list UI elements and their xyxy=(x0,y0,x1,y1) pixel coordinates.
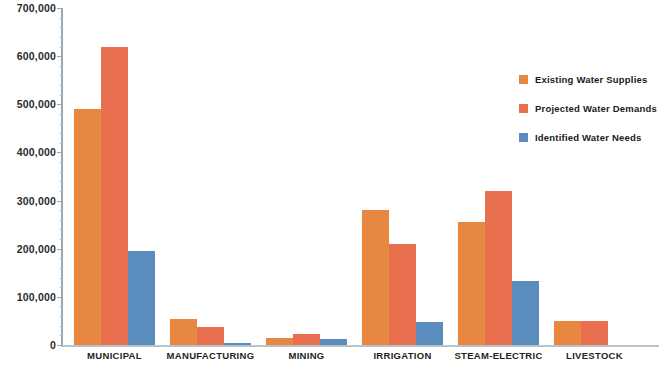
y-axis-minor-tick xyxy=(59,287,62,288)
y-axis-minor-tick xyxy=(59,162,62,163)
legend-item: Existing Water Supplies xyxy=(519,68,664,90)
legend-item: Identified Water Needs xyxy=(519,126,664,148)
x-axis-tick-label: IRRIGATION xyxy=(373,350,431,361)
x-axis-baseline xyxy=(61,345,659,347)
y-axis-minor-tick xyxy=(59,133,62,134)
y-axis-minor-tick xyxy=(59,172,62,173)
bar xyxy=(416,322,443,345)
y-axis-minor-tick xyxy=(59,306,62,307)
y-axis-minor-tick xyxy=(59,47,62,48)
y-axis-minor-tick xyxy=(59,181,62,182)
y-axis-tick-label: 300,000 xyxy=(0,195,56,207)
legend-swatch-orange-icon xyxy=(519,75,528,84)
y-axis-minor-tick xyxy=(59,191,62,192)
y-axis-tick-label: 500,000 xyxy=(0,98,56,110)
x-axis-tick-label: LIVESTOCK xyxy=(566,350,623,361)
bar xyxy=(320,339,347,345)
legend-swatch-salmon-icon xyxy=(519,104,528,113)
y-axis-tick-mark xyxy=(57,297,62,298)
plot-area xyxy=(62,8,664,345)
y-axis-minor-tick xyxy=(59,37,62,38)
y-axis-minor-tick xyxy=(59,210,62,211)
y-axis-minor-tick xyxy=(59,124,62,125)
legend-item: Projected Water Demands xyxy=(519,97,664,119)
x-axis-tick-label: MINING xyxy=(288,350,324,361)
y-axis-minor-tick xyxy=(59,95,62,96)
y-axis-minor-tick xyxy=(59,143,62,144)
bar xyxy=(128,251,155,345)
x-axis-tick-label: MANUFACTURING xyxy=(167,350,255,361)
chart-legend: Existing Water SuppliesProjected Water D… xyxy=(519,68,664,155)
y-axis-minor-tick xyxy=(59,27,62,28)
y-axis-tick-label: 200,000 xyxy=(0,243,56,255)
bar xyxy=(389,244,416,345)
y-axis-tick-label: 700,000 xyxy=(0,2,56,14)
bar xyxy=(197,327,224,345)
bar xyxy=(458,222,485,345)
y-axis-tick-mark xyxy=(57,56,62,57)
bar-chart: 700,000600,000500,000400,000300,000200,0… xyxy=(0,0,664,372)
y-axis-tick-mark xyxy=(57,345,62,346)
bar xyxy=(101,47,128,345)
y-axis-tick-label: 100,000 xyxy=(0,291,56,303)
y-axis-minor-tick xyxy=(59,85,62,86)
bar xyxy=(512,281,539,345)
y-axis-tick-label: 600,000 xyxy=(0,50,56,62)
y-axis-tick-mark xyxy=(57,8,62,9)
y-axis-tick-mark xyxy=(57,152,62,153)
y-axis-minor-tick xyxy=(59,278,62,279)
legend-item-label: Existing Water Supplies xyxy=(535,74,647,85)
x-axis-tick-label: STEAM-ELECTRIC xyxy=(454,350,542,361)
y-axis-minor-tick xyxy=(59,316,62,317)
bar xyxy=(266,338,293,345)
bar xyxy=(485,191,512,345)
y-axis-minor-tick xyxy=(59,239,62,240)
legend-swatch-blue-icon xyxy=(519,133,528,142)
y-axis-minor-tick xyxy=(59,229,62,230)
x-axis: MUNICIPALMANUFACTURINGMININGIRRIGATIONST… xyxy=(0,350,664,372)
bar xyxy=(362,210,389,345)
bar xyxy=(554,321,581,345)
y-axis-minor-tick xyxy=(59,18,62,19)
y-axis-minor-tick xyxy=(59,114,62,115)
y-axis-tick-mark xyxy=(57,104,62,105)
y-axis-minor-tick xyxy=(59,268,62,269)
y-axis-minor-tick xyxy=(59,335,62,336)
bar xyxy=(581,321,608,345)
y-axis: 700,000600,000500,000400,000300,000200,0… xyxy=(0,0,56,372)
y-axis-minor-tick xyxy=(59,258,62,259)
y-axis-tick-mark xyxy=(57,201,62,202)
bar xyxy=(74,109,101,345)
y-axis-tick-mark xyxy=(57,249,62,250)
x-axis-tick-label: MUNICIPAL xyxy=(87,350,142,361)
y-axis-minor-tick xyxy=(59,66,62,67)
bar xyxy=(224,343,251,345)
legend-item-label: Projected Water Demands xyxy=(535,103,657,114)
y-axis-tick-label: 400,000 xyxy=(0,146,56,158)
y-axis-minor-tick xyxy=(59,75,62,76)
y-axis-minor-tick xyxy=(59,220,62,221)
bar xyxy=(293,334,320,345)
bar xyxy=(170,319,197,345)
legend-item-label: Identified Water Needs xyxy=(535,132,641,143)
y-axis-minor-tick xyxy=(59,326,62,327)
